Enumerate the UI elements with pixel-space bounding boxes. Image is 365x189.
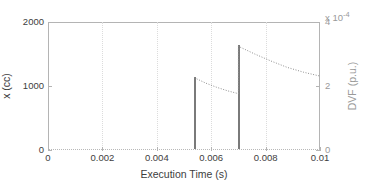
x-tick-mark — [320, 147, 321, 151]
y-right-tick-label: 2 — [325, 81, 330, 91]
x-tick-label: 0.002 — [91, 153, 115, 163]
x-tick-label: 0.006 — [199, 153, 223, 163]
chart-figure: 00.0020.0040.0060.0080.01 010002000 024 … — [0, 0, 365, 189]
series-dvf-curve — [48, 22, 320, 150]
dvf-segment-decay-1 — [194, 78, 238, 94]
y-left-tick-label: 0 — [39, 145, 44, 155]
y-left-tick-mark — [48, 150, 52, 151]
y-axis-title-right: DVF (p.u.) — [346, 62, 358, 110]
right-axis-multiplier: x 10-4 — [325, 10, 350, 23]
y-right-tick-mark — [316, 150, 320, 151]
x-tick-label: 0 — [45, 153, 50, 163]
x-tick-label: 0.004 — [145, 153, 169, 163]
y-axis-title-left: x (cc) — [0, 73, 12, 99]
x-axis-title: Execution Time (s) — [141, 168, 228, 180]
plot-area — [48, 22, 320, 150]
y-right-tick-label: 0 — [325, 145, 330, 155]
y-left-tick-label: 2000 — [23, 17, 44, 27]
right-axis-multiplier-exponent: -4 — [343, 10, 350, 19]
dvf-segment-decay-2 — [238, 46, 320, 93]
right-axis-multiplier-base: x 10 — [325, 12, 343, 23]
y-left-tick-label: 1000 — [23, 81, 44, 91]
x-tick-label: 0.008 — [254, 153, 278, 163]
